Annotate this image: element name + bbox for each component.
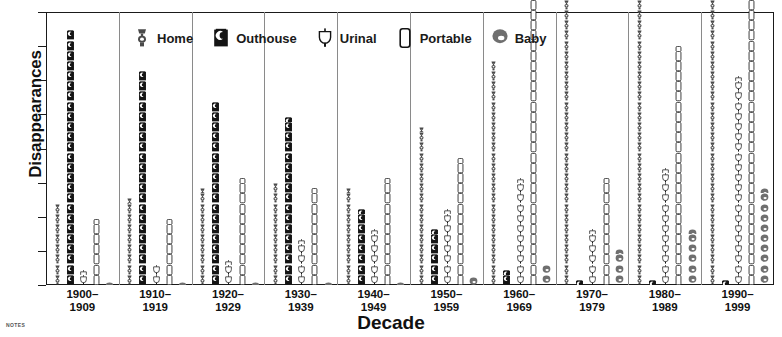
home-toilet-icon bbox=[270, 224, 281, 234]
urinal-icon bbox=[733, 142, 744, 152]
urinal-icon bbox=[515, 204, 526, 214]
outhouse-icon bbox=[429, 275, 440, 285]
legend-item[interactable]: Outhouse bbox=[211, 27, 297, 49]
home-toilet-icon bbox=[488, 112, 499, 122]
decade-group bbox=[628, 12, 701, 285]
outhouse-icon bbox=[65, 234, 76, 244]
portable-toilet-icon bbox=[455, 275, 466, 285]
portable-toilet-icon bbox=[237, 254, 248, 264]
home-toilet-icon bbox=[132, 27, 152, 49]
x-tick-line1: 1900– bbox=[66, 288, 98, 300]
urinal-icon bbox=[733, 112, 744, 122]
baby-potty-icon bbox=[614, 275, 625, 285]
legend-item[interactable]: Baby bbox=[490, 27, 547, 49]
outhouse-icon bbox=[283, 224, 294, 234]
portable-toilet-icon bbox=[528, 61, 539, 71]
legend-item[interactable]: Urinal bbox=[315, 27, 377, 49]
portable-toilet-icon bbox=[455, 244, 466, 254]
portable-toilet-icon bbox=[455, 183, 466, 193]
home-toilet-icon bbox=[707, 51, 718, 61]
baby-potty-icon bbox=[104, 282, 115, 285]
outhouse-icon bbox=[210, 265, 221, 275]
home-toilet-icon bbox=[707, 183, 718, 193]
legend-item[interactable]: Portable bbox=[395, 27, 472, 49]
portable-toilet-icon bbox=[528, 204, 539, 214]
x-axis-tick-label: 1950–1959 bbox=[411, 288, 481, 313]
portable-toilet-icon bbox=[91, 275, 102, 285]
urinal-icon bbox=[660, 214, 671, 224]
urinal-icon bbox=[369, 275, 380, 285]
baby-potty-icon bbox=[759, 224, 770, 234]
home-toilet-icon bbox=[561, 275, 572, 285]
home-toilet-icon bbox=[707, 234, 718, 244]
portable-toilet-icon bbox=[395, 27, 415, 49]
pictogram-stack bbox=[236, 178, 249, 285]
outhouse-icon bbox=[65, 275, 76, 285]
pictogram-stack bbox=[368, 229, 381, 285]
urinal-icon bbox=[587, 234, 598, 244]
home-toilet-icon bbox=[707, 244, 718, 254]
outhouse-icon bbox=[429, 234, 440, 244]
baby-potty-icon bbox=[687, 254, 698, 264]
outhouse-icon bbox=[283, 122, 294, 132]
portable-toilet-icon bbox=[528, 0, 539, 10]
outhouse-icon bbox=[429, 254, 440, 264]
urinal-icon bbox=[442, 244, 453, 254]
home-toilet-icon bbox=[634, 173, 645, 183]
home-toilet-icon bbox=[270, 183, 281, 193]
outhouse-icon bbox=[137, 132, 148, 142]
home-toilet-icon bbox=[561, 224, 572, 234]
y-axis-tick bbox=[38, 183, 46, 184]
home-toilet-icon bbox=[634, 122, 645, 132]
home-toilet-icon bbox=[561, 193, 572, 203]
portable-toilet-icon bbox=[673, 265, 684, 275]
portable-toilet-icon bbox=[601, 265, 612, 275]
home-toilet-icon bbox=[343, 275, 354, 285]
portable-toilet-icon bbox=[746, 10, 757, 20]
portable-toilet-icon bbox=[91, 234, 102, 244]
portable-toilet-icon bbox=[673, 183, 684, 193]
outhouse-icon bbox=[65, 163, 76, 173]
urinal-icon bbox=[733, 91, 744, 101]
legend-item[interactable]: Home bbox=[132, 27, 193, 49]
urinal-icon bbox=[515, 234, 526, 244]
pictogram-stack bbox=[77, 270, 90, 285]
outhouse-icon bbox=[501, 275, 512, 285]
urinal-icon bbox=[515, 254, 526, 264]
home-toilet-icon bbox=[561, 132, 572, 142]
outhouse-icon bbox=[65, 30, 76, 40]
x-tick-line1: 1990– bbox=[722, 288, 754, 300]
outhouse-icon bbox=[65, 132, 76, 142]
x-tick-line1: 1910– bbox=[139, 288, 171, 300]
y-axis-tick bbox=[38, 80, 46, 81]
portable-toilet-icon bbox=[237, 265, 248, 275]
home-toilet-icon bbox=[343, 214, 354, 224]
home-toilet-icon bbox=[270, 204, 281, 214]
home-toilet-icon bbox=[488, 183, 499, 193]
home-toilet-icon bbox=[707, 112, 718, 122]
portable-toilet-icon bbox=[746, 51, 757, 61]
urinal-icon bbox=[660, 224, 671, 234]
outhouse-icon bbox=[137, 102, 148, 112]
urinal-icon bbox=[315, 27, 335, 49]
home-toilet-icon bbox=[52, 234, 63, 244]
portable-toilet-icon bbox=[237, 234, 248, 244]
urinal-icon bbox=[733, 254, 744, 264]
outhouse-icon bbox=[65, 122, 76, 132]
outhouse-icon bbox=[210, 163, 221, 173]
pictogram-stack bbox=[269, 183, 282, 285]
home-toilet-icon bbox=[270, 265, 281, 275]
outhouse-icon bbox=[356, 265, 367, 275]
portable-toilet-icon bbox=[309, 254, 320, 264]
baby-potty-icon bbox=[687, 265, 698, 275]
urinal-icon bbox=[733, 244, 744, 254]
portable-toilet-icon bbox=[455, 163, 466, 173]
home-toilet-icon bbox=[561, 20, 572, 30]
portable-toilet-icon bbox=[528, 265, 539, 275]
portable-toilet-icon bbox=[673, 51, 684, 61]
home-toilet-icon bbox=[197, 265, 208, 275]
portable-toilet-icon bbox=[91, 265, 102, 275]
notes-label: NOTES bbox=[6, 322, 25, 328]
outhouse-icon bbox=[65, 183, 76, 193]
portable-toilet-icon bbox=[528, 224, 539, 234]
